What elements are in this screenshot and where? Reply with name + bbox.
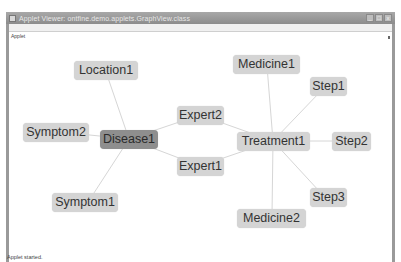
node-step1[interactable]: Step1 <box>310 77 347 96</box>
node-treatment1[interactable]: Treatment1 <box>237 132 310 151</box>
node-disease1[interactable]: Disease1 <box>100 130 158 149</box>
node-medicine2[interactable]: Medicine2 <box>237 209 306 228</box>
node-symptom1[interactable]: Symptom1 <box>52 193 118 212</box>
node-expert1[interactable]: Expert1 <box>177 157 224 176</box>
node-symptom2[interactable]: Symptom2 <box>23 123 89 142</box>
node-medicine1[interactable]: Medicine1 <box>233 55 300 74</box>
status-bar-text: Applet started. <box>7 254 42 260</box>
edge-treatment1-medicine1 <box>267 66 273 141</box>
edge-treatment1-medicine2 <box>272 141 273 215</box>
node-location1[interactable]: Location1 <box>74 61 138 80</box>
node-step3[interactable]: Step3 <box>310 188 347 207</box>
node-step2[interactable]: Step2 <box>332 132 371 151</box>
node-expert2[interactable]: Expert2 <box>177 106 224 125</box>
edge-disease1-location1 <box>106 72 129 139</box>
